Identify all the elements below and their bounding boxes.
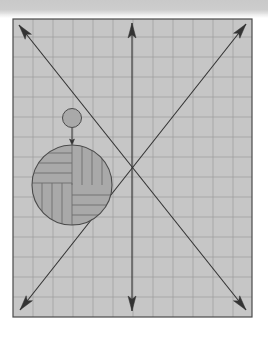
diagram-canvas	[0, 0, 268, 342]
small-circle	[63, 109, 82, 128]
small-circle-shape	[63, 109, 82, 128]
large-patterned-circle	[32, 145, 112, 225]
